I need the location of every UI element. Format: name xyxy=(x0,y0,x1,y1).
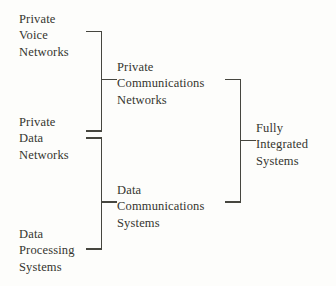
node-line: Voice xyxy=(19,27,69,43)
node-line: Fully xyxy=(256,120,308,136)
node-line: Networks xyxy=(117,92,205,108)
node-line: Data xyxy=(117,182,205,198)
bracket-upper-left-arm-top xyxy=(86,31,102,33)
node-line: Data xyxy=(19,226,75,242)
bracket-lower-left-output-stub xyxy=(101,201,117,203)
node-line: Private xyxy=(19,114,69,130)
node-line: Systems xyxy=(117,215,205,231)
bracket-upper-left-output-stub xyxy=(101,79,117,81)
node-data-communications-systems: Data Communications Systems xyxy=(117,182,205,231)
bracket-lower-left-arm-top xyxy=(86,137,102,139)
node-line: Communications xyxy=(117,75,205,91)
node-line: Systems xyxy=(19,259,75,275)
node-line: Data xyxy=(19,130,69,146)
node-line: Communications xyxy=(117,198,205,214)
node-line: Private xyxy=(117,59,205,75)
node-line: Processing xyxy=(19,242,75,258)
node-line: Networks xyxy=(19,147,69,163)
bracket-right-arm-bottom xyxy=(225,201,241,203)
node-line: Systems xyxy=(256,153,308,169)
bracket-right-output-stub xyxy=(240,140,256,142)
node-private-communications-networks: Private Communications Networks xyxy=(117,59,205,108)
bracket-diagram: Private Voice Networks Private Data Netw… xyxy=(0,0,336,286)
node-private-voice-networks: Private Voice Networks xyxy=(19,11,69,60)
bracket-upper-left-spine xyxy=(101,31,103,132)
bracket-lower-left-arm-bottom xyxy=(86,248,102,250)
node-line: Integrated xyxy=(256,136,308,152)
bracket-upper-left-arm-bottom xyxy=(86,130,102,132)
bracket-right-arm-top xyxy=(225,79,241,81)
node-line: Private xyxy=(19,11,69,27)
node-data-processing-systems: Data Processing Systems xyxy=(19,226,75,275)
node-private-data-networks: Private Data Networks xyxy=(19,114,69,163)
node-line: Networks xyxy=(19,44,69,60)
bracket-lower-left-spine xyxy=(101,137,103,249)
node-fully-integrated-systems: Fully Integrated Systems xyxy=(256,120,308,169)
